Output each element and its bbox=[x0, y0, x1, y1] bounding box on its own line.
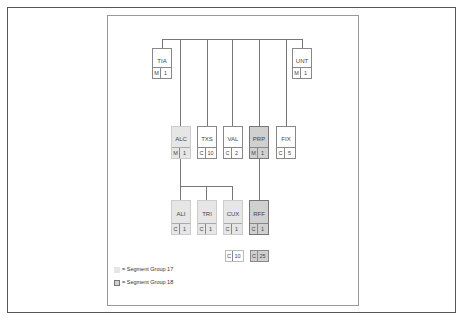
segment-tag: TIA bbox=[153, 58, 171, 64]
connector-cux bbox=[232, 186, 233, 200]
swatch-group-17 bbox=[114, 267, 120, 273]
segment-repeat: 1 bbox=[179, 224, 190, 234]
segment-tag: ALC bbox=[172, 136, 190, 142]
legend-label: = Segment Group 17 bbox=[122, 266, 173, 272]
diagram-frame bbox=[107, 15, 359, 306]
segment-repeat: 10 bbox=[205, 148, 216, 158]
group-repeat: 10 bbox=[232, 251, 243, 261]
segment-repeat: 1 bbox=[300, 68, 311, 78]
segment-fix: FIX C5 bbox=[276, 126, 296, 159]
segment-tag: VAL bbox=[224, 136, 242, 142]
group-17-count: C10 bbox=[225, 250, 244, 262]
segment-tag: TXS bbox=[198, 136, 216, 142]
legend-label: = Segment Group 18 bbox=[122, 279, 173, 285]
segment-tia: TIA M1 bbox=[152, 48, 172, 79]
segment-ali: ALI C1 bbox=[171, 200, 191, 235]
connector-prp bbox=[259, 39, 260, 126]
segment-val: VAL C2 bbox=[223, 126, 243, 159]
segment-tag: UNT bbox=[293, 58, 311, 64]
segment-repeat: 1 bbox=[205, 224, 216, 234]
group-repeat: 25 bbox=[257, 251, 268, 261]
segment-tag: CUX bbox=[224, 211, 242, 217]
segment-tag: FIX bbox=[277, 136, 295, 142]
segment-txs: TXS C10 bbox=[197, 126, 217, 159]
segment-repeat: 1 bbox=[160, 68, 171, 78]
connector-tia bbox=[162, 39, 163, 48]
connector-val bbox=[232, 39, 233, 126]
segment-repeat: 1 bbox=[257, 148, 268, 158]
connector-prp-rff bbox=[259, 158, 260, 200]
legend-group-18: = Segment Group 18 bbox=[114, 278, 173, 286]
segment-rff: RFF C1 bbox=[249, 200, 269, 235]
segment-repeat: 1 bbox=[231, 224, 242, 234]
segment-tri: TRI C1 bbox=[197, 200, 217, 235]
segment-repeat: 1 bbox=[179, 148, 190, 158]
connector-alc-down bbox=[180, 158, 181, 200]
connector-unt bbox=[302, 39, 303, 48]
segment-repeat: 5 bbox=[284, 148, 295, 158]
connector-alc bbox=[180, 39, 181, 126]
segment-repeat: 2 bbox=[231, 148, 242, 158]
legend-group-17: = Segment Group 17 bbox=[114, 265, 173, 273]
group-18-count: C25 bbox=[250, 250, 269, 262]
segment-prp: PRP M1 bbox=[249, 126, 269, 159]
connector-fix bbox=[286, 39, 287, 126]
segment-tag: ALI bbox=[172, 211, 190, 217]
connector-txs bbox=[207, 39, 208, 126]
segment-tag: PRP bbox=[250, 136, 268, 142]
segment-unt: UNT M1 bbox=[292, 48, 312, 79]
segment-alc: ALC M1 bbox=[171, 126, 191, 159]
segment-cux: CUX C1 bbox=[223, 200, 243, 235]
segment-tag: TRI bbox=[198, 211, 216, 217]
swatch-group-18 bbox=[114, 280, 120, 286]
segment-tag: RFF bbox=[250, 211, 268, 217]
connector-tri bbox=[206, 186, 207, 200]
segment-repeat: 1 bbox=[257, 224, 268, 234]
